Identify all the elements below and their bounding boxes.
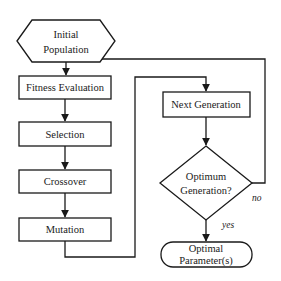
optimal-parameters-line2: Parameter(s) [179,255,233,267]
node-selection: Selection [19,122,111,146]
fitness-evaluation-label: Fitness Evaluation [26,82,105,93]
selection-label: Selection [45,129,85,140]
crossover-label: Crossover [44,176,87,187]
diamond-shape [160,146,252,220]
hexagon-shape [17,20,115,62]
decision-line1: Optimum [186,171,226,182]
decision-line2: Generation? [180,185,232,196]
initial-population-line1: Initial [53,29,78,40]
mutation-label: Mutation [46,224,85,235]
edge-label-no: no [252,193,262,203]
node-initial-population: Initial Population [17,20,115,62]
node-mutation: Mutation [19,218,111,241]
flowchart-diagram: Initial Population Fitness Evaluation Se… [0,0,281,281]
node-next-generation: Next Generation [163,92,250,117]
edge-label-yes: yes [221,220,234,230]
next-generation-label: Next Generation [171,99,241,110]
optimal-parameters-line1: Optimal [189,243,223,254]
node-optimal-parameters: Optimal Parameter(s) [161,242,252,267]
node-optimum-generation-decision: Optimum Generation? [160,146,252,220]
node-fitness-evaluation: Fitness Evaluation [19,76,111,99]
node-crossover: Crossover [19,170,111,193]
initial-population-line2: Population [43,44,89,55]
